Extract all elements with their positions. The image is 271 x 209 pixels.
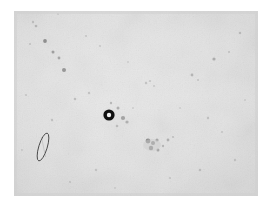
debris-speck [95,169,97,171]
debris-speck [167,139,170,142]
debris-speck [116,125,119,128]
debris-speck [244,99,246,101]
micrograph-canvas [0,0,271,209]
debris-speck [29,43,31,45]
debris-speck [21,149,23,151]
micrograph-figure [0,0,271,209]
debris-speck [149,80,151,82]
specimen-field [14,11,258,196]
debris-speck [52,51,55,54]
debris-speck [191,74,194,77]
debris-speck [145,82,147,84]
debris-cluster [143,139,161,151]
debris-speck [62,68,66,72]
debris-speck [32,21,34,23]
debris-speck [51,119,53,121]
debris-speck [234,159,236,161]
debris-speck [88,92,90,94]
debris-speck [153,85,155,87]
debris-speck [74,98,77,101]
debris-speck [69,181,71,183]
debris-speck [121,116,125,120]
debris-speck [199,169,202,172]
debris-speck [117,107,120,110]
debris-speck [58,57,61,60]
debris-speck [125,120,128,123]
debris-speck [43,39,47,43]
debris-speck [127,61,129,63]
debris-speck [110,102,112,104]
debris-speck [35,25,38,28]
debris-speck [162,145,164,147]
debris-speck [221,131,223,133]
debris-speck [172,136,174,138]
debris-speck [114,187,116,189]
debris-speck [25,94,27,96]
debris-speck [239,32,242,35]
field-grain-texture [14,11,258,196]
debris-speck [85,35,87,37]
debris-speck [197,79,199,81]
debris-speck [179,107,181,109]
debris-speck [99,45,101,47]
debris-speck [132,107,134,109]
ring-particle [101,107,118,124]
debris-speck [228,51,230,53]
debris-speck [207,117,209,119]
debris-speck [212,57,215,60]
debris-speck [169,177,171,179]
